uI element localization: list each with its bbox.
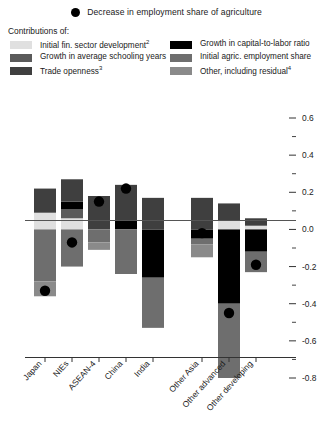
marker-point bbox=[40, 286, 50, 296]
legend-title: Contributions of: bbox=[8, 26, 69, 36]
bar-segment bbox=[61, 218, 83, 229]
x-axis-category-label: Other Asia bbox=[167, 358, 201, 394]
y-axis-major-ticks bbox=[289, 118, 296, 378]
bar-segment bbox=[34, 189, 56, 213]
marker-legend-label: Decrease in employment share of agricult… bbox=[87, 7, 262, 17]
bar-segment bbox=[88, 196, 110, 229]
bar-segment bbox=[218, 229, 240, 303]
legend-item: Growth in average schooling years bbox=[10, 51, 170, 64]
legend-item-label: Initial fin. sector development2 bbox=[40, 39, 149, 50]
legend-item-label: Other, including residual4 bbox=[200, 65, 291, 76]
marker-point bbox=[148, 261, 158, 271]
bar-segment bbox=[191, 244, 213, 257]
y-axis-tick-label: -0.2 bbox=[302, 262, 317, 272]
legend-swatch bbox=[170, 67, 192, 75]
marker-point bbox=[121, 183, 131, 193]
bar-segment bbox=[218, 220, 240, 229]
legend-footnote-marker: 3 bbox=[99, 65, 102, 71]
bar-segment bbox=[142, 229, 164, 277]
bar-segment bbox=[191, 239, 213, 245]
bar-segment bbox=[142, 278, 164, 328]
y-axis-tick-label: 0.6 bbox=[302, 113, 314, 123]
x-axis-category-label: ASEAN-4 bbox=[66, 358, 98, 392]
marker-legend: Decrease in employment share of agricult… bbox=[0, 4, 333, 20]
marker-point bbox=[251, 260, 261, 270]
bar-segment bbox=[218, 304, 240, 378]
legend-swatch bbox=[10, 54, 32, 62]
bar-segment bbox=[34, 229, 56, 281]
bar-stack bbox=[88, 196, 110, 250]
x-axis-category-labels: JapanNIEsASEAN-4ChinaIndiaOther AsiaOthe… bbox=[21, 358, 255, 412]
bar-segment bbox=[115, 185, 137, 220]
bar-segment bbox=[245, 226, 267, 230]
bar-segment bbox=[115, 220, 137, 229]
legend-item: Initial agric. employment share bbox=[170, 51, 328, 64]
filled-circle-marker-icon bbox=[71, 8, 80, 17]
marker-points-group bbox=[40, 183, 261, 318]
bar-segment bbox=[34, 213, 56, 230]
bar-segment bbox=[115, 229, 137, 274]
legend-item: Initial fin. sector development2 bbox=[10, 38, 170, 51]
y-axis-tick-label: -0.8 bbox=[302, 373, 317, 383]
marker-point bbox=[224, 308, 234, 318]
bar-segment bbox=[191, 229, 213, 238]
bar-segment bbox=[245, 218, 267, 225]
bar-segment bbox=[88, 242, 110, 249]
x-axis-category-label: Other advanced bbox=[180, 358, 228, 409]
legend-item: Trade openness3 bbox=[10, 64, 170, 77]
legend-item: Growth in capital-to-labor ratio bbox=[170, 38, 328, 51]
bar-segment bbox=[142, 198, 164, 230]
legend-swatch bbox=[170, 41, 192, 49]
marker-point bbox=[67, 237, 77, 247]
bar-segment bbox=[218, 203, 240, 220]
legend: Initial fin. sector development2Growth i… bbox=[10, 38, 328, 77]
legend-item: Other, including residual4 bbox=[170, 64, 328, 77]
y-axis-minor-ticks bbox=[292, 137, 296, 360]
y-axis-tick-label: 0.4 bbox=[302, 150, 314, 160]
bar-segment bbox=[34, 281, 56, 296]
bar-segment bbox=[61, 229, 83, 266]
bar-stack bbox=[218, 203, 240, 378]
bar-segment bbox=[61, 209, 83, 218]
marker-point bbox=[94, 196, 104, 206]
legend-item-label: Growth in capital-to-labor ratio bbox=[200, 40, 310, 48]
legend-item-label: Initial agric. employment share bbox=[200, 53, 311, 61]
y-axis-tick-label: -0.6 bbox=[302, 336, 317, 346]
bar-stack bbox=[191, 198, 213, 257]
x-axis-category-label: NIEs bbox=[51, 359, 71, 379]
x-axis-category-label: Other developing bbox=[204, 358, 254, 412]
legend-footnote-marker: 2 bbox=[146, 39, 149, 45]
bar-segment bbox=[245, 252, 267, 272]
legend-item-label: Trade openness3 bbox=[40, 65, 102, 76]
y-axis-tick-label: 0.0 bbox=[302, 224, 314, 234]
bar-stack bbox=[115, 185, 137, 274]
x-axis-ticks bbox=[45, 358, 256, 363]
y-axis-tick-label: 0.2 bbox=[302, 187, 314, 197]
legend-item-label: Growth in average schooling years bbox=[40, 53, 166, 61]
legend-footnote-marker: 4 bbox=[288, 65, 291, 71]
bar-segment bbox=[191, 198, 213, 230]
bar-stack bbox=[34, 189, 56, 297]
bar-stack bbox=[245, 218, 267, 272]
bar-series-group bbox=[34, 179, 267, 378]
y-axis-tick-labels: 0.60.40.20.0-0.2-0.4-0.6-0.8 bbox=[302, 113, 317, 383]
bar-stack bbox=[61, 179, 83, 266]
bar-segment bbox=[61, 179, 83, 201]
x-axis-category-label: China bbox=[102, 358, 124, 381]
bar-stack bbox=[142, 198, 164, 328]
y-axis-tick-label: -0.4 bbox=[302, 299, 317, 309]
bar-segment bbox=[61, 202, 83, 209]
marker-point bbox=[197, 228, 207, 238]
legend-swatch bbox=[170, 54, 192, 62]
bar-segment bbox=[88, 229, 110, 242]
legend-swatch bbox=[10, 41, 32, 49]
legend-swatch bbox=[10, 67, 32, 75]
x-axis-category-label: Japan bbox=[21, 358, 44, 382]
bar-segment bbox=[245, 229, 267, 251]
x-axis-category-label: India bbox=[132, 358, 152, 378]
